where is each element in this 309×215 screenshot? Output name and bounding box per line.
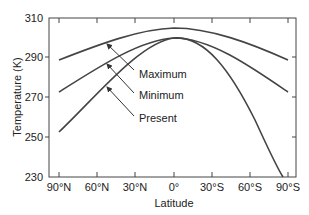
x-axis-title: Latitude — [154, 197, 193, 209]
y-tick-label: 290 — [25, 51, 43, 63]
annotation-minimum: Minimum — [139, 89, 184, 101]
x-tick-label: 90°N — [47, 181, 72, 193]
x-tick-label: 90°S — [276, 181, 300, 193]
x-tick-label: 60°N — [85, 181, 110, 193]
series-present — [59, 38, 283, 177]
annotation-maximum: Maximum — [139, 68, 187, 80]
x-tick-label: 60°S — [238, 181, 262, 193]
y-tick-label: 250 — [25, 131, 43, 143]
y-axis-title: Temperature (K) — [11, 57, 23, 136]
arrow-maximum — [107, 44, 134, 70]
annotation-present: Present — [139, 112, 177, 124]
series-maximum — [59, 28, 288, 60]
x-tick-label: 0° — [169, 181, 180, 193]
y-tick-label: 230 — [25, 171, 43, 183]
arrow-minimum — [107, 64, 134, 93]
x-tick-label: 30°S — [200, 181, 224, 193]
y-tick-label: 270 — [25, 91, 43, 103]
y-tick-label: 310 — [25, 12, 43, 24]
x-tick-label: 30°N — [123, 181, 148, 193]
chart: 310 290 270 250 230 90°N 60°N 30°N 0° 30… — [0, 0, 309, 215]
arrow-present — [107, 87, 134, 116]
